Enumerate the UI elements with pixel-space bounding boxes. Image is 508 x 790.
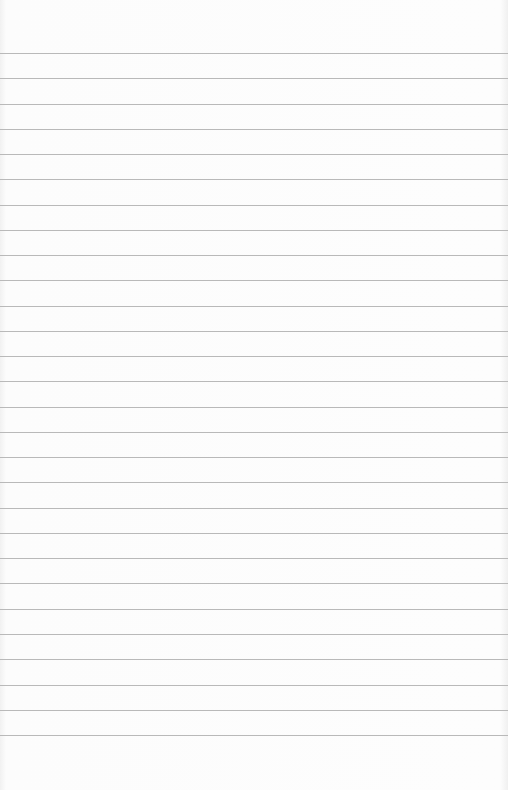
ruled-line: [0, 634, 508, 635]
ruled-line: [0, 659, 508, 660]
ruled-line: [0, 685, 508, 686]
ruled-line: [0, 230, 508, 231]
ruled-line: [0, 280, 508, 281]
ruled-line: [0, 129, 508, 130]
ruled-line: [0, 104, 508, 105]
ruled-line: [0, 583, 508, 584]
ruled-line: [0, 432, 508, 433]
ruled-line: [0, 457, 508, 458]
ruled-line: [0, 710, 508, 711]
ruled-line: [0, 482, 508, 483]
ruled-line: [0, 735, 508, 736]
ruled-line: [0, 205, 508, 206]
ruled-line: [0, 356, 508, 357]
ruled-line: [0, 78, 508, 79]
ruled-line: [0, 53, 508, 54]
ruled-line: [0, 255, 508, 256]
ruled-line: [0, 508, 508, 509]
ruled-line: [0, 179, 508, 180]
ruled-line: [0, 331, 508, 332]
ruled-line: [0, 154, 508, 155]
ruled-line: [0, 306, 508, 307]
notepad-page: [0, 0, 508, 790]
ruled-line: [0, 533, 508, 534]
ruled-line: [0, 407, 508, 408]
ruled-line: [0, 558, 508, 559]
ruled-line: [0, 381, 508, 382]
ruled-line: [0, 609, 508, 610]
